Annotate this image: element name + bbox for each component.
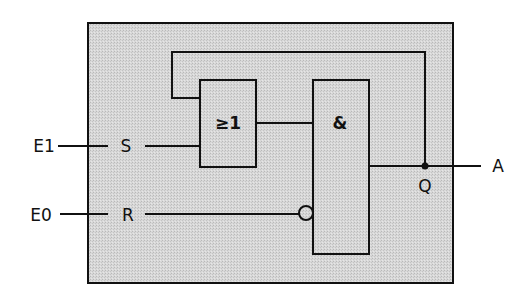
and-gate-symbol: &	[333, 113, 348, 133]
input-r-label: R	[122, 205, 134, 225]
input-e1-label: E1	[33, 136, 55, 156]
rs-flipflop-diagram: ≥1 & Q A E1 S E0 R	[0, 0, 525, 296]
input-e0-label: E0	[30, 205, 52, 225]
junction-dot	[422, 163, 429, 170]
output-internal-label: Q	[418, 176, 431, 196]
output-external-label: A	[492, 156, 504, 176]
circuit-enclosure	[88, 23, 453, 283]
input-s-label: S	[121, 136, 132, 156]
or-gate-symbol: ≥1	[215, 113, 241, 133]
